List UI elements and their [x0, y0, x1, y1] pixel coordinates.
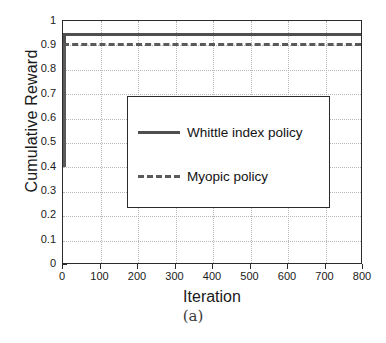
legend-entry-whittle-index-policy: Whittle index policy	[138, 121, 323, 143]
y-tick-label: 0.9	[41, 39, 56, 50]
x-tick-label: 300	[159, 271, 191, 282]
gridline-horizontal	[63, 45, 361, 46]
legend-box: Whittle index policy Myopic policy	[127, 96, 330, 208]
legend-swatch-solid-line-icon	[138, 131, 180, 134]
y-tick-label: 0.8	[41, 63, 56, 74]
y-tick-label: 0.7	[41, 88, 56, 99]
figure-panel: 1 0.9 0.8 0.7 0.6 0.5 0.4 0.3 0.2 0.1 0 …	[0, 0, 386, 343]
y-tick-label: 0.3	[41, 185, 56, 196]
y-tick-label: 0.4	[41, 161, 56, 172]
y-tick-label: 1	[50, 15, 56, 26]
y-tick-label: 0	[50, 258, 56, 269]
x-tick-label: 500	[234, 271, 266, 282]
series-myopic-policy	[63, 43, 361, 46]
x-tick-mark	[287, 264, 288, 269]
x-tick-mark	[250, 264, 251, 269]
y-tick-label: 0.1	[41, 234, 56, 245]
x-tick-mark	[362, 264, 363, 269]
legend-label: Whittle index policy	[187, 125, 303, 140]
x-tick-mark	[212, 264, 213, 269]
x-tick-label: 600	[271, 271, 303, 282]
gridline-vertical	[101, 21, 102, 263]
gridline-horizontal	[63, 241, 361, 242]
x-tick-label: 400	[196, 271, 228, 282]
x-tick-label: 700	[309, 271, 341, 282]
x-tick-mark	[100, 264, 101, 269]
legend-swatch-dashed-line-icon	[138, 175, 180, 178]
x-tick-label: 0	[46, 271, 78, 282]
y-tick-label: 0.2	[41, 209, 56, 220]
gridline-horizontal	[63, 70, 361, 71]
series-whittle-index-policy-ramp	[63, 33, 66, 128]
series-myopic-policy-ramp	[63, 43, 66, 168]
figure-caption: (a)	[0, 308, 386, 325]
legend-entry-myopic-policy: Myopic policy	[138, 165, 323, 187]
x-tick-label: 800	[346, 271, 378, 282]
gridline-horizontal	[63, 216, 361, 217]
series-whittle-index-policy	[63, 33, 361, 36]
x-tick-mark	[62, 264, 63, 269]
y-tick-label: 0.5	[41, 136, 56, 147]
x-axis-label: Iteration	[62, 288, 362, 306]
y-axis-label: Cumulative Reward	[23, 11, 41, 231]
x-tick-mark	[325, 264, 326, 269]
legend-label: Myopic policy	[187, 169, 268, 184]
x-tick-label: 200	[121, 271, 153, 282]
x-tick-mark	[175, 264, 176, 269]
x-tick-label: 100	[84, 271, 116, 282]
y-tick-label: 0.6	[41, 112, 56, 123]
x-tick-mark	[137, 264, 138, 269]
